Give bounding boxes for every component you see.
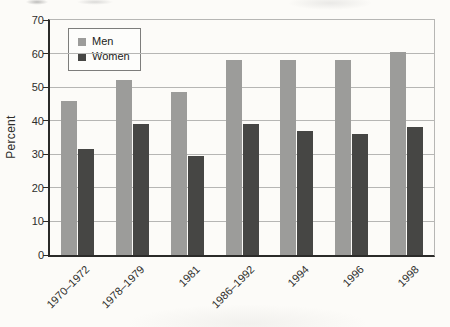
bar-women xyxy=(188,156,204,255)
gridline xyxy=(50,53,434,54)
y-tick-label: 20 xyxy=(32,181,44,195)
legend-item-women: Women xyxy=(78,49,130,64)
legend-swatch-men xyxy=(78,38,86,46)
y-tick-label: 0 xyxy=(38,248,44,262)
legend: MenWomen xyxy=(68,28,141,71)
bar-men xyxy=(226,60,242,255)
gridline xyxy=(50,120,434,121)
gridline xyxy=(50,87,434,88)
y-tick-label: 60 xyxy=(32,47,44,61)
bar-women xyxy=(133,124,149,255)
y-tick-label: 40 xyxy=(32,114,44,128)
plot-area: MenWomen xyxy=(48,19,435,257)
bar-men xyxy=(171,92,187,255)
bar-women xyxy=(297,131,313,255)
bar-men xyxy=(280,60,296,255)
x-tick-label: 1994 xyxy=(286,263,312,289)
y-tick-label: 30 xyxy=(32,147,44,161)
legend-label: Men xyxy=(92,35,113,48)
bar-men xyxy=(390,52,406,255)
bar-women xyxy=(243,124,259,255)
bar-women xyxy=(78,149,94,255)
bar-women xyxy=(407,127,423,255)
bar-men xyxy=(61,101,77,255)
x-tick-label: 1998 xyxy=(395,263,421,289)
legend-label: Women xyxy=(92,50,130,63)
legend-item-men: Men xyxy=(78,34,130,49)
bar-men xyxy=(335,60,351,255)
y-tick-label: 50 xyxy=(32,80,44,94)
y-tick-label: 70 xyxy=(32,13,44,27)
y-axis-title: Percent xyxy=(4,115,18,158)
scanned-grouped-bar-chart: Percent MenWomen 0102030405060701970–197… xyxy=(0,0,450,327)
x-tick-label: 1981 xyxy=(176,263,202,289)
x-tick-label: 1986–1992 xyxy=(209,263,256,310)
x-tick-label: 1978–1979 xyxy=(99,263,146,310)
y-tick-label: 10 xyxy=(32,214,44,228)
x-tick-label: 1996 xyxy=(340,263,366,289)
x-tick-label: 1970–1972 xyxy=(45,263,92,310)
bar-men xyxy=(116,80,132,255)
bar-women xyxy=(352,134,368,255)
